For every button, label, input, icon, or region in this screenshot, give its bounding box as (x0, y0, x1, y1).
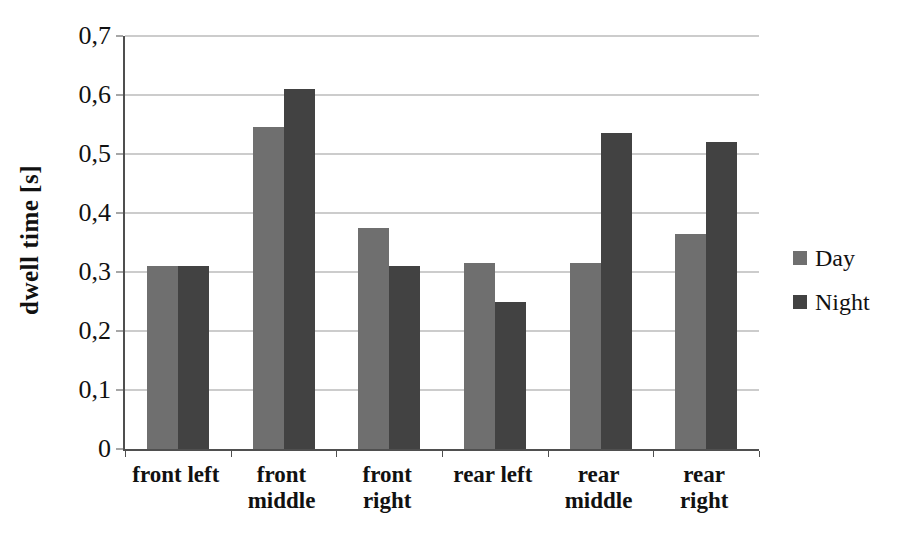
y-tick-label: 0,2 (55, 318, 111, 344)
x-tick (336, 451, 337, 457)
bar-front-middle-day (253, 127, 284, 449)
y-tick-0_7 (116, 36, 123, 37)
legend-item-night: Night (793, 290, 870, 314)
x-axis-label-rear-right: rear right (651, 462, 757, 514)
bar-group-rear-right (653, 36, 759, 449)
y-tick-label: 0,5 (55, 141, 111, 167)
legend-item-day: Day (793, 246, 870, 270)
x-axis-labels: front leftfront middlefront rightrear le… (123, 462, 757, 514)
x-axis-label-front-left: front left (123, 462, 229, 514)
x-tick (125, 451, 126, 457)
bar-rear-middle-night (601, 133, 632, 449)
bars-layer (125, 36, 759, 449)
bar-front-right-day (358, 228, 389, 449)
y-tick-label: 0,6 (55, 82, 111, 108)
legend-label-day: Day (815, 246, 855, 270)
y-axis-title: dwell time [s] (16, 165, 44, 315)
legend-swatch-night (793, 295, 807, 309)
y-tick-0_1 (116, 390, 123, 391)
x-tick (442, 451, 443, 457)
x-tick (653, 451, 654, 457)
bar-group-front-middle (231, 36, 337, 449)
y-tick-label: 0,4 (55, 200, 111, 226)
legend-label-night: Night (815, 290, 870, 314)
y-tick-0 (116, 449, 123, 450)
bar-front-middle-night (284, 89, 315, 449)
y-tick-label: 0,1 (55, 377, 111, 403)
bar-rear-left-night (495, 302, 526, 450)
bar-front-right-night (389, 266, 420, 449)
x-tick (759, 451, 760, 457)
legend-swatch-day (793, 251, 807, 265)
x-axis-label-rear-middle: rear middle (546, 462, 652, 514)
x-tick (548, 451, 549, 457)
plot-area: 00,10,20,30,40,50,60,7 (123, 36, 759, 451)
bar-rear-left-day (464, 263, 495, 449)
bar-chart-figure: dwell time [s] 00,10,20,30,40,50,60,7 fr… (0, 0, 901, 552)
bar-group-rear-left (442, 36, 548, 449)
bar-rear-right-night (706, 142, 737, 449)
x-axis-label-rear-left: rear left (440, 462, 546, 514)
x-axis-label-front-middle: front middle (229, 462, 335, 514)
y-tick-0_4 (116, 213, 123, 214)
y-tick-0_6 (116, 95, 123, 96)
y-tick-0_2 (116, 331, 123, 332)
bar-group-rear-middle (548, 36, 654, 449)
y-tick-label: 0 (55, 436, 111, 462)
x-axis-label-front-right: front right (334, 462, 440, 514)
legend: DayNight (793, 246, 870, 314)
bar-rear-right-day (675, 234, 706, 449)
x-tick (231, 451, 232, 457)
bar-group-front-right (336, 36, 442, 449)
y-tick-0_5 (116, 154, 123, 155)
y-tick-label: 0,7 (55, 23, 111, 49)
bar-group-front-left (125, 36, 231, 449)
bar-rear-middle-day (570, 263, 601, 449)
bar-front-left-day (147, 266, 178, 449)
bar-front-left-night (178, 266, 209, 449)
y-tick-label: 0,3 (55, 259, 111, 285)
y-tick-0_3 (116, 272, 123, 273)
